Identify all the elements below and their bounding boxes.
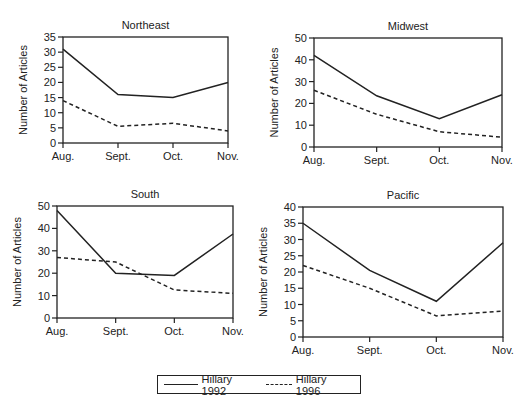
chart-title: Pacific xyxy=(387,189,420,201)
legend-label: Hillary 1992 xyxy=(202,373,256,397)
y-tick-label: 10 xyxy=(295,119,307,131)
y-tick-label: 25 xyxy=(44,61,56,73)
y-tick-label: 0 xyxy=(50,137,56,149)
y-tick-label: 30 xyxy=(295,76,307,88)
y-tick-label: 40 xyxy=(284,201,296,213)
y-tick-label: 10 xyxy=(38,290,50,302)
y-tick-label: 0 xyxy=(44,312,50,324)
y-axis-label: Number of Articles xyxy=(17,45,29,135)
legend-item-1992: Hillary 1992 xyxy=(164,373,256,397)
y-tick-label: 5 xyxy=(50,122,56,134)
series-line-hillary-1992 xyxy=(63,49,228,97)
series-line-hillary-1992 xyxy=(314,55,502,118)
chart-northeast: Northeast05101520253035Aug.Sept.Oct.Nov.… xyxy=(17,19,239,162)
x-tick-label: Nov. xyxy=(217,150,239,162)
plot-frame xyxy=(57,206,233,318)
y-axis-label: Number of Articles xyxy=(268,47,280,137)
legend: Hillary 1992 Hillary 1996 xyxy=(157,375,361,394)
x-tick-label: Sept. xyxy=(105,150,131,162)
dashed-line-swatch-icon xyxy=(266,384,292,385)
x-tick-label: Aug. xyxy=(46,325,69,337)
legend-item-1996: Hillary 1996 xyxy=(266,373,350,397)
y-tick-label: 40 xyxy=(295,54,307,66)
y-tick-label: 50 xyxy=(38,200,50,212)
x-tick-label: Sept. xyxy=(364,154,390,166)
y-axis-label: Number of Articles xyxy=(257,227,269,317)
series-line-hillary-1996 xyxy=(303,266,503,316)
y-tick-label: 30 xyxy=(44,46,56,58)
series-line-hillary-1992 xyxy=(57,210,233,275)
x-tick-label: Oct. xyxy=(164,325,184,337)
x-tick-label: Oct. xyxy=(163,150,183,162)
y-tick-label: 20 xyxy=(44,76,56,88)
x-tick-label: Nov. xyxy=(492,344,514,356)
y-tick-label: 35 xyxy=(44,31,56,43)
series-line-hillary-1996 xyxy=(57,258,233,294)
x-tick-label: Aug. xyxy=(292,344,315,356)
y-tick-label: 25 xyxy=(284,250,296,262)
x-tick-label: Nov. xyxy=(491,154,513,166)
y-tick-label: 10 xyxy=(284,299,296,311)
y-tick-label: 15 xyxy=(44,92,56,104)
chart-title: South xyxy=(131,188,160,200)
y-axis-label: Number of Articles xyxy=(11,217,23,307)
y-tick-label: 10 xyxy=(44,107,56,119)
series-line-hillary-1996 xyxy=(314,90,502,137)
plot-frame xyxy=(303,207,503,337)
y-tick-label: 20 xyxy=(295,97,307,109)
chart-pacific: Pacific0510152025303540Aug.Sept.Oct.Nov.… xyxy=(257,189,514,356)
y-tick-label: 20 xyxy=(284,266,296,278)
chart-title: Midwest xyxy=(388,20,428,32)
x-tick-label: Aug. xyxy=(303,154,326,166)
series-line-hillary-1992 xyxy=(303,223,503,301)
series-line-hillary-1996 xyxy=(63,101,228,131)
x-tick-label: Sept. xyxy=(357,344,383,356)
y-tick-label: 30 xyxy=(38,245,50,257)
x-tick-label: Oct. xyxy=(429,154,449,166)
y-tick-label: 0 xyxy=(290,331,296,343)
y-tick-label: 20 xyxy=(38,267,50,279)
y-tick-label: 40 xyxy=(38,222,50,234)
x-tick-label: Aug. xyxy=(52,150,75,162)
solid-line-swatch-icon xyxy=(164,384,198,385)
charts-canvas: Northeast05101520253035Aug.Sept.Oct.Nov.… xyxy=(0,0,530,412)
y-tick-label: 5 xyxy=(290,315,296,327)
y-tick-label: 35 xyxy=(284,217,296,229)
y-tick-label: 15 xyxy=(284,282,296,294)
y-tick-label: 30 xyxy=(284,234,296,246)
y-tick-label: 50 xyxy=(295,32,307,44)
x-tick-label: Oct. xyxy=(426,344,446,356)
legend-label: Hillary 1996 xyxy=(296,373,350,397)
y-tick-label: 0 xyxy=(301,141,307,153)
chart-south: South01020304050Aug.Sept.Oct.Nov.Number … xyxy=(11,188,244,337)
chart-title: Northeast xyxy=(122,19,170,31)
chart-midwest: Midwest01020304050Aug.Sept.Oct.Nov.Numbe… xyxy=(268,20,513,166)
x-tick-label: Nov. xyxy=(222,325,244,337)
x-tick-label: Sept. xyxy=(103,325,129,337)
plot-frame xyxy=(314,38,502,147)
